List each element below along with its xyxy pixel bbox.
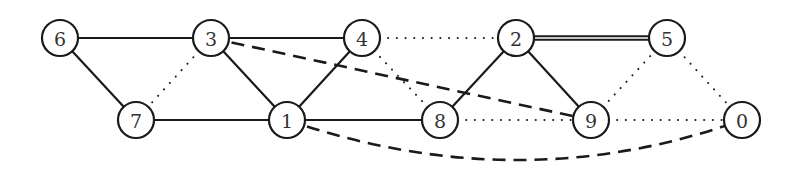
node-label: 7 [130,110,142,132]
edge-3-9 [211,38,591,120]
node-label: 8 [434,110,446,132]
node-7: 7 [118,102,154,138]
node-3: 3 [193,20,229,56]
node-8: 8 [422,102,458,138]
node-2: 2 [498,20,534,56]
node-label: 1 [281,110,293,132]
node-1: 1 [269,102,305,138]
graph-diagram: 6342571890 [0,0,802,176]
node-label: 0 [736,110,748,132]
node-6: 6 [42,20,78,56]
edge-1-0 [287,120,742,160]
node-label: 2 [510,28,522,50]
node-9: 9 [573,102,609,138]
edges-layer [60,38,742,160]
node-label: 3 [205,28,217,50]
node-5: 5 [649,20,685,56]
node-label: 5 [661,28,673,50]
node-4: 4 [344,20,380,56]
node-label: 4 [356,28,368,50]
node-label: 9 [585,110,597,132]
node-label: 6 [54,28,66,50]
node-0: 0 [724,102,760,138]
